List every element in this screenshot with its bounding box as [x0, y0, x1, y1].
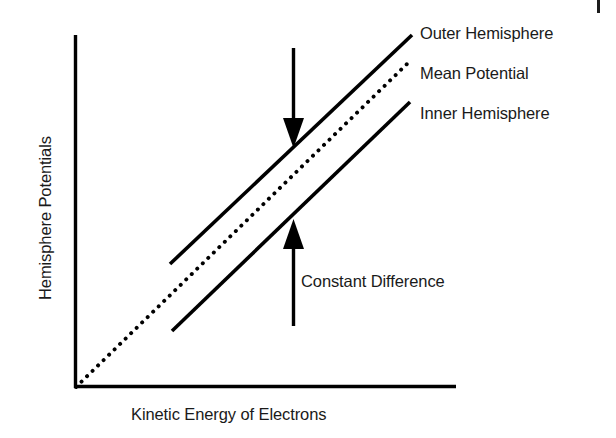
annotation-label-constant-difference: Constant Difference — [301, 272, 445, 290]
y-axis-label: Hemisphere Potentials — [36, 136, 54, 300]
series-line-mean-potential — [76, 61, 410, 387]
series-label-mean-potential: Mean Potential — [420, 64, 529, 82]
x-axis-label: Kinetic Energy of Electrons — [131, 405, 326, 423]
page-edge-artifact — [597, 0, 600, 13]
series-label-outer-hemisphere: Outer Hemisphere — [420, 24, 553, 42]
series-label-inner-hemisphere: Inner Hemisphere — [420, 104, 550, 122]
down-arrow-annotation — [283, 48, 304, 148]
hemisphere-potentials-diagram: Outer Hemisphere Mean Potential Inner He… — [0, 0, 616, 438]
down-arrow-head — [283, 118, 304, 148]
